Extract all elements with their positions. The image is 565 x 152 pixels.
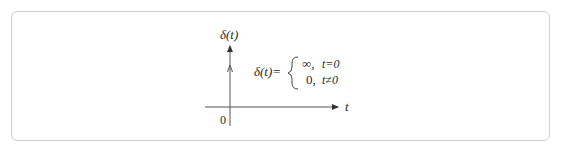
case-1-condition: t=0 [322,57,339,71]
case-2-condition: t≠0 [322,73,338,87]
x-axis-label: t [345,99,349,114]
impulse-diagram: δ(t) t 0 δ(t)= ∞, t=0 0, t≠0 [0,0,565,152]
brace-icon [288,57,298,89]
case-2-value: 0, [306,72,316,87]
y-axis-label: δ(t) [220,27,238,42]
definition-lhs: δ(t)= [254,64,281,79]
origin-label: 0 [220,113,226,127]
case-1-value: ∞, [302,56,315,71]
